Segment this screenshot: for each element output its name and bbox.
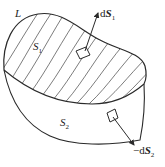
label-minus-ds2: −dS2 bbox=[133, 144, 155, 159]
label-s1: S1 bbox=[33, 40, 43, 55]
normal-arrow-ds2 bbox=[113, 117, 134, 145]
rim-front bbox=[4, 70, 144, 104]
area-element-s2 bbox=[107, 109, 118, 122]
surface-diagram: L S1 S2 dS1 −dS2 bbox=[0, 0, 165, 167]
label-curve-L: L bbox=[14, 7, 21, 19]
label-s2: S2 bbox=[60, 116, 70, 131]
surface-s2-outline bbox=[4, 70, 144, 144]
curve-L-outline bbox=[4, 13, 146, 84]
hatching-s1 bbox=[0, 10, 165, 110]
label-ds1: dS1 bbox=[100, 7, 116, 22]
